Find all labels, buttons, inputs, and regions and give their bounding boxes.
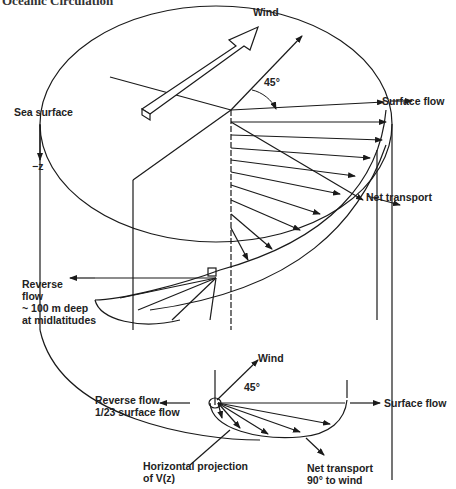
label-wind-top: Wind xyxy=(253,6,279,18)
label-net-transport-bottom-2: 90° to wind xyxy=(307,474,363,486)
ekman-spiral-diagram xyxy=(0,0,456,489)
label-reverse-flow-bottom-1: Reverse flow xyxy=(95,394,160,406)
label-wind-bottom: Wind xyxy=(258,352,284,364)
wind-arrow-icon xyxy=(142,27,258,120)
label-horiz-proj-2: of V(z) xyxy=(143,472,175,484)
label-net-transport-top: Net transport xyxy=(366,191,432,203)
label-angle-top: 45° xyxy=(264,76,280,88)
label-surface-flow-bottom: Surface flow xyxy=(384,397,446,409)
label-horiz-proj-1: Horizontal projection xyxy=(143,460,248,472)
label-angle-bottom: 45° xyxy=(244,381,260,393)
label-reverse-flow-bottom-2: 1/23 surface flow xyxy=(95,406,180,418)
label-reverse-flow-1: Reverse xyxy=(22,278,63,290)
label-reverse-flow-3: ~ 100 m deep xyxy=(22,302,88,314)
cylinder-top-ellipse xyxy=(40,6,392,242)
label-reverse-flow-2: flow xyxy=(22,290,43,302)
label-sea-surface: Sea surface xyxy=(14,106,73,118)
label-reverse-flow-4: at midlatitudes xyxy=(22,314,96,326)
label-z-axis: −z xyxy=(32,160,43,172)
label-net-transport-bottom-1: Net transport xyxy=(307,462,373,474)
label-surface-flow-top: Surface flow xyxy=(382,95,444,107)
